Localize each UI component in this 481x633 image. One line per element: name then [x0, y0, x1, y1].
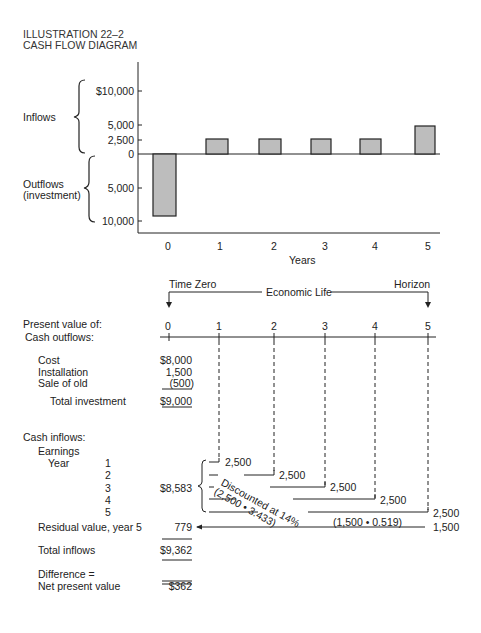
- diagram-graphics: [0, 0, 481, 633]
- inflows-label: Inflows: [23, 111, 56, 123]
- year-2: 2: [105, 469, 111, 481]
- x-axis-label: Years: [289, 254, 315, 266]
- total-investment-value: $9,000: [140, 395, 192, 407]
- outflows-sublabel: (investment): [23, 189, 81, 201]
- residual-calc: (1,500 • 0.519): [333, 516, 402, 528]
- cash-inflows-heading: Cash inflows:: [23, 431, 85, 443]
- chart-axes: [138, 62, 440, 233]
- year-3: 3: [105, 482, 111, 494]
- timeline-tick-5: 5: [425, 320, 431, 332]
- residual-arrowhead: [196, 525, 202, 530]
- dashed-year-lines: [219, 341, 428, 510]
- year-label: Year: [48, 457, 69, 469]
- residual-pv-value: 779: [140, 521, 192, 533]
- annual-amount-2: 2,500: [279, 469, 305, 481]
- horizon-label: Horizon: [394, 278, 430, 290]
- y-tick-2500: 2,500: [80, 134, 134, 146]
- annual-amount-5: 2,500: [433, 507, 459, 519]
- cost-label: Cost: [38, 354, 60, 366]
- earnings-label: Earnings: [38, 445, 79, 457]
- total-inflows-value: $9,362: [140, 544, 192, 556]
- timeline-tick-0: 0: [165, 320, 171, 332]
- sale-of-old-label: Sale of old: [38, 377, 88, 389]
- annual-amount-4: 2,500: [380, 494, 406, 506]
- y-tick-5000: 5,000: [80, 119, 134, 131]
- x-tick-0: 0: [165, 240, 171, 252]
- year-1: 1: [105, 457, 111, 469]
- x-tick-5: 5: [425, 240, 431, 252]
- y-tick-0: 0: [80, 148, 134, 160]
- timeline-lines: [160, 292, 436, 341]
- y-tick-neg-10000: 10,000: [80, 215, 134, 227]
- timeline-tick-4: 4: [372, 320, 378, 332]
- economic-life-label: Economic Life: [266, 286, 332, 298]
- total-investment-label: Total investment: [50, 395, 126, 407]
- year-5: 5: [105, 506, 111, 518]
- difference-label: Difference =: [38, 568, 95, 580]
- y-tick-10000: $10,000: [80, 85, 134, 97]
- cash-outflows-heading: Cash outflows:: [25, 331, 94, 343]
- x-tick-1: 1: [217, 240, 223, 252]
- timeline-tick-2: 2: [271, 320, 277, 332]
- bars: [153, 126, 435, 216]
- year-4: 4: [105, 494, 111, 506]
- earnings-pv-value: $8,583: [140, 482, 192, 494]
- residual-amount: 1,500: [433, 521, 459, 533]
- timeline-arrowheads: [166, 302, 431, 308]
- npv-label: Net present value: [38, 580, 120, 592]
- annual-amount-1: 2,500: [225, 456, 251, 468]
- x-tick-2: 2: [271, 240, 277, 252]
- timeline-tick-3: 3: [322, 320, 328, 332]
- y-tick-neg-5000: 5,000: [80, 182, 134, 194]
- x-tick-4: 4: [372, 240, 378, 252]
- x-tick-3: 3: [322, 240, 328, 252]
- annual-amount-3: 2,500: [330, 481, 356, 493]
- residual-value-label: Residual value, year 5: [38, 521, 142, 533]
- npv-value: $362: [140, 580, 192, 592]
- time-zero-label: Time Zero: [169, 278, 216, 290]
- timeline-tick-1: 1: [216, 320, 222, 332]
- sale-of-old-value: (500): [140, 377, 194, 389]
- cost-value: $8,000: [140, 354, 192, 366]
- total-inflows-label: Total inflows: [38, 544, 95, 556]
- present-value-heading: Present value of:: [23, 318, 102, 330]
